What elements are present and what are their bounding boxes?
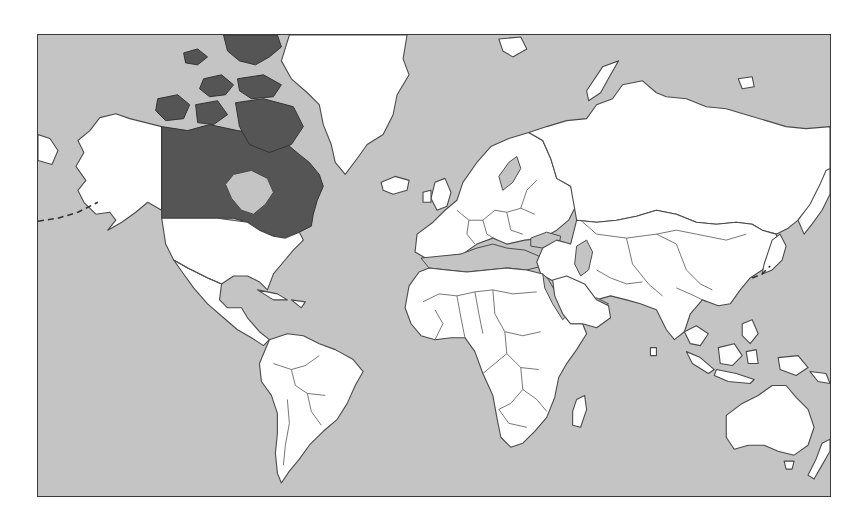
region-sri-lanka (650, 348, 656, 356)
region-ireland (423, 190, 431, 202)
world-map (38, 35, 830, 496)
world-map-frame (37, 34, 831, 497)
region-tasmania (784, 461, 794, 469)
